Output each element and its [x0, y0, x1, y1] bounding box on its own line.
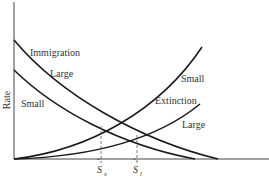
- equilibrium-large-label: S l ˆ: [133, 158, 142, 178]
- label-immigration-small: Small: [21, 98, 45, 109]
- label-extinction: Extinction: [155, 95, 197, 106]
- island-biogeography-diagram: Rate Immigration Large Small Small Extin…: [0, 0, 269, 182]
- svg-text:ˆ: ˆ: [97, 158, 100, 167]
- label-extinction-large: Large: [182, 119, 206, 130]
- immigration-small-curve: [14, 70, 195, 159]
- svg-text:l: l: [140, 170, 142, 178]
- label-immigration-large: Large: [50, 68, 74, 79]
- equilibrium-small-label: S s ˆ: [97, 158, 107, 178]
- label-extinction-small: Small: [181, 73, 205, 84]
- y-axis-label: Rate: [1, 90, 12, 109]
- svg-text:ˆ: ˆ: [133, 158, 136, 167]
- label-immigration: Immigration: [30, 47, 80, 58]
- svg-text:s: s: [104, 170, 107, 178]
